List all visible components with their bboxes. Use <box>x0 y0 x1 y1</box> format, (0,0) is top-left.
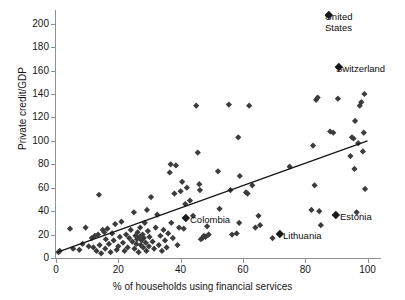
data-point <box>178 188 184 194</box>
x-tick-label: 60 <box>237 265 248 275</box>
data-point <box>171 190 177 196</box>
data-point <box>226 101 232 107</box>
data-point <box>351 166 357 172</box>
data-point <box>111 237 117 243</box>
data-point <box>82 224 88 230</box>
x-tick-label: 100 <box>359 265 376 275</box>
x-tick-mark <box>368 258 369 263</box>
data-point <box>67 226 73 232</box>
data-point <box>167 169 173 175</box>
data-point <box>149 239 155 245</box>
data-point <box>234 230 240 236</box>
data-point <box>308 207 314 213</box>
data-point <box>97 242 103 248</box>
data-point <box>181 226 187 232</box>
data-point <box>168 220 174 226</box>
data-point <box>145 228 151 234</box>
annotation-switzerland: Switzerland <box>336 63 385 74</box>
annotation-united-states: United States <box>325 11 352 33</box>
data-point <box>96 192 102 198</box>
data-point <box>76 247 82 253</box>
y-tick-label: 80 <box>38 159 49 169</box>
data-point <box>316 208 322 214</box>
data-point <box>159 248 165 254</box>
data-point <box>144 207 150 213</box>
data-point <box>216 206 222 212</box>
data-point <box>193 103 199 109</box>
data-point <box>112 221 118 227</box>
data-point <box>237 173 243 179</box>
data-point <box>153 224 159 230</box>
y-tick-label: 40 <box>38 206 49 216</box>
data-point <box>118 219 124 225</box>
data-point <box>135 249 141 255</box>
x-tick-mark <box>118 258 119 263</box>
data-point <box>361 91 367 97</box>
y-tick-label: 120 <box>32 112 49 122</box>
y-tick-label: 0 <box>43 253 49 263</box>
x-axis-title: % of households using financial services <box>0 281 405 292</box>
x-tick-mark <box>243 258 244 263</box>
data-point <box>196 181 202 187</box>
chart-figure: 020406080100120140160180200 020406080100… <box>0 0 405 300</box>
data-point <box>156 242 162 248</box>
data-point <box>195 149 201 155</box>
data-point <box>120 240 126 246</box>
data-point <box>173 162 179 168</box>
annotation-estonia: Estonia <box>340 211 372 222</box>
data-point <box>102 246 108 252</box>
data-point <box>151 246 157 252</box>
data-point <box>215 168 221 174</box>
y-axis-title: Private credit/GDP <box>17 29 28 189</box>
data-point <box>362 186 368 192</box>
data-point <box>236 220 242 226</box>
data-point <box>311 182 317 188</box>
data-point <box>170 235 176 241</box>
data-point <box>131 209 137 215</box>
data-point <box>146 234 152 240</box>
data-point <box>103 236 109 242</box>
x-tick-mark <box>305 258 306 263</box>
data-point <box>229 231 235 237</box>
data-point <box>184 185 190 191</box>
y-tick-label: 100 <box>32 136 49 146</box>
data-point <box>160 227 166 233</box>
data-point <box>86 243 92 249</box>
y-tick-label: 20 <box>38 230 49 240</box>
x-tick-mark <box>56 258 57 263</box>
data-point <box>310 142 316 148</box>
data-point <box>352 118 358 124</box>
x-tick-label: 0 <box>53 265 59 275</box>
data-point <box>269 235 275 241</box>
y-tick-label: 200 <box>32 19 49 29</box>
x-axis-line <box>55 258 381 259</box>
data-point <box>117 234 123 240</box>
y-tick-label: 160 <box>32 66 49 76</box>
data-point <box>179 179 185 185</box>
data-point <box>148 194 154 200</box>
annotation-lithuania: Lithuania <box>283 230 322 241</box>
data-point <box>187 198 193 204</box>
x-tick-label: 20 <box>113 265 124 275</box>
data-point <box>174 242 180 248</box>
x-tick-label: 40 <box>175 265 186 275</box>
y-tick-label: 180 <box>32 42 49 52</box>
data-point <box>128 227 134 233</box>
y-tick-label: 60 <box>38 183 49 193</box>
data-point <box>163 244 169 250</box>
data-point <box>106 241 112 247</box>
data-point <box>162 237 168 243</box>
data-point <box>318 222 324 228</box>
x-tick-mark <box>181 258 182 263</box>
data-point <box>165 230 171 236</box>
data-point <box>197 187 203 193</box>
data-point <box>255 213 261 219</box>
y-tick-label: 140 <box>32 89 49 99</box>
data-point <box>361 130 367 136</box>
annotation-colombia: Colombia <box>190 214 230 225</box>
data-point <box>176 224 182 230</box>
data-point <box>360 148 366 154</box>
x-tick-label: 80 <box>300 265 311 275</box>
data-point <box>157 233 163 239</box>
data-point <box>107 249 113 255</box>
